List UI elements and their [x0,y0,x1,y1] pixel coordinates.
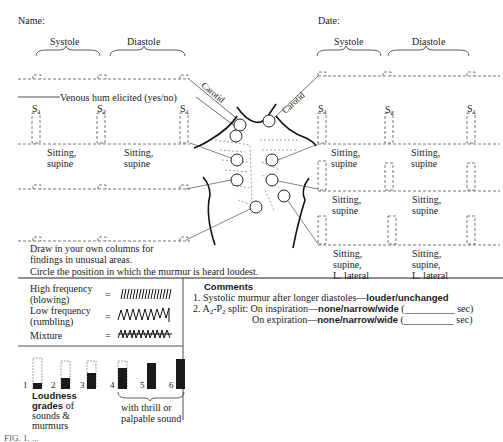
grade-1-label: 1 [23,380,28,391]
equals-sign: = [105,311,111,322]
position-label: Sitting, supine [124,147,153,169]
s1-label-left: S1 [32,103,41,118]
grade-3-label: 3 [80,380,85,391]
s2-label-right: S2 [385,104,394,119]
position-label: Sitting, supine [332,194,361,216]
legend-high-frequency: High frequency (blowing) [30,283,92,305]
mixture-glyph [118,330,172,338]
position-label: Sitting, supine [411,147,440,169]
figure-caption: FIG. 1. ... [4,433,39,442]
pulmonic-area-circle [263,115,275,127]
grade-4-label: 4 [110,380,115,391]
position-label: Sitting, supine, L. lateral [333,248,369,281]
s1-label-right: S1 [318,103,327,118]
equals-sign: = [105,289,111,300]
systole-label-left: Systole [50,36,79,47]
s1b-label-right: S1 [467,103,476,118]
equals-sign: = [105,330,111,341]
circle-loudest-note: Circle the position in which the murmur … [30,266,258,277]
high-frequency-glyph [121,289,171,299]
date-label: Date: [318,15,340,26]
auscultation-diagram [0,0,503,442]
position-label: Sitting, supine, L. lateral [412,248,448,281]
position-label: Sitting, supine [412,194,441,216]
legend-mixture: Mixture [30,330,62,341]
grade-6-bar [176,359,185,389]
grade-5-bar [147,363,156,389]
aortic-area-circle [234,119,246,131]
diastole-label-right: Diastole [412,36,445,47]
systole-label-right: Systole [334,36,363,47]
name-label: Name: [18,15,45,26]
comment-item-2-expiration: On expiration—none/narrow/wide (________… [252,314,472,325]
diastole-label-left: Diastole [127,36,160,47]
brace-diastole-right [388,46,469,56]
low-frequency-glyph [118,308,169,322]
grade-6-label: 6 [169,380,174,391]
position-label: Sitting, supine [331,147,360,169]
comments-title: Comments [204,281,253,292]
grade-3-bar [87,373,96,389]
position-label: Sitting, supine [47,147,76,169]
brace-systole-left [36,46,100,56]
venous-hum-label: Venous hum elicited (yes/no) [60,92,177,103]
grade-2-bar [61,378,70,389]
comment-item-1: 1. Systolic murmur after longer diastole… [193,292,449,303]
grade-4-bar [118,368,127,389]
s2-label-left: S2 [97,103,106,118]
thrill-note: with thrill or palpable sound [121,402,181,424]
grade-1-bar [33,383,42,389]
draw-own-columns-note: Draw in your own columns for findings in… [30,243,154,265]
grade-5-label: 5 [140,380,145,391]
s1b-label-left: S1 [180,103,189,118]
brace-systole-right [317,46,381,56]
legend-low-frequency: Low frequency (rumbling) [30,305,91,327]
brace-diastole-left [110,46,185,56]
loudness-grades-title: Loudness grades of sounds & murmurs [32,391,77,431]
thrill-brace [118,392,184,401]
